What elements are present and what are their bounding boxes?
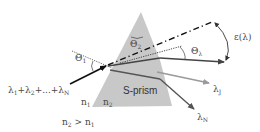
n2-label: n2 xyxy=(103,98,113,108)
input-wavelengths-label: λ1+λ2+...+λN xyxy=(8,86,69,96)
s-prism-label: S-prism xyxy=(123,86,157,96)
prism-diagram: Θ1 Θ2 Θλ ε(λ) λ1+λ2+...+λN n1 n2 S-prism… xyxy=(0,0,260,132)
theta2-label: Θ2 xyxy=(130,40,141,50)
n2-subscript: 2 xyxy=(109,101,113,108)
n1-subscript: 1 xyxy=(87,101,91,108)
diagram-graphics xyxy=(0,0,260,132)
main-ray-exit xyxy=(160,58,224,62)
theta-lambda-arc xyxy=(180,47,185,60)
theta1-arc xyxy=(92,61,94,71)
lambda-j-subscript: J xyxy=(219,88,221,95)
theta-lambda-label: Θλ xyxy=(191,47,202,57)
theta2-subscript: 2 xyxy=(137,43,141,50)
lambda-n-label: λN xyxy=(197,113,208,123)
condition-operator: > n xyxy=(72,117,91,127)
index-condition-label: n2 > n1 xyxy=(62,118,95,128)
ellipsis-lambda: +...+λ xyxy=(35,85,64,95)
epsilon-angle-arc xyxy=(215,23,228,60)
incident-ray xyxy=(70,66,106,84)
plus-lambda: +λ xyxy=(18,85,31,95)
theta-lambda-subscript: λ xyxy=(198,50,202,57)
theta1-label: Θ1 xyxy=(75,54,86,64)
epsilon-label: ε(λ) xyxy=(234,33,251,42)
subscript-n: N xyxy=(64,89,69,96)
lambda-n-subscript: N xyxy=(203,116,208,123)
condition-n1-subscript: 1 xyxy=(91,121,95,128)
lambda-j-label: λJ xyxy=(213,85,221,95)
theta1-subscript: 1 xyxy=(82,57,86,64)
n1-label: n1 xyxy=(81,98,91,108)
